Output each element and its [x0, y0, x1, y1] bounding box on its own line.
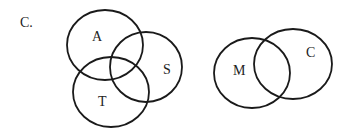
label-m: M	[233, 63, 246, 78]
circle-s	[110, 32, 182, 102]
label-a: A	[92, 29, 103, 44]
venn-diagram-canvas: C. A S T M C	[0, 0, 348, 128]
label-c: C	[306, 45, 315, 60]
circle-a	[67, 10, 143, 80]
label-s: S	[163, 62, 171, 77]
circle-c	[254, 29, 332, 99]
option-label: C.	[20, 15, 33, 30]
two-set-venn: M C	[214, 29, 332, 108]
label-t: T	[98, 94, 107, 109]
circle-t	[73, 57, 149, 127]
three-set-venn: A S T	[67, 10, 182, 127]
